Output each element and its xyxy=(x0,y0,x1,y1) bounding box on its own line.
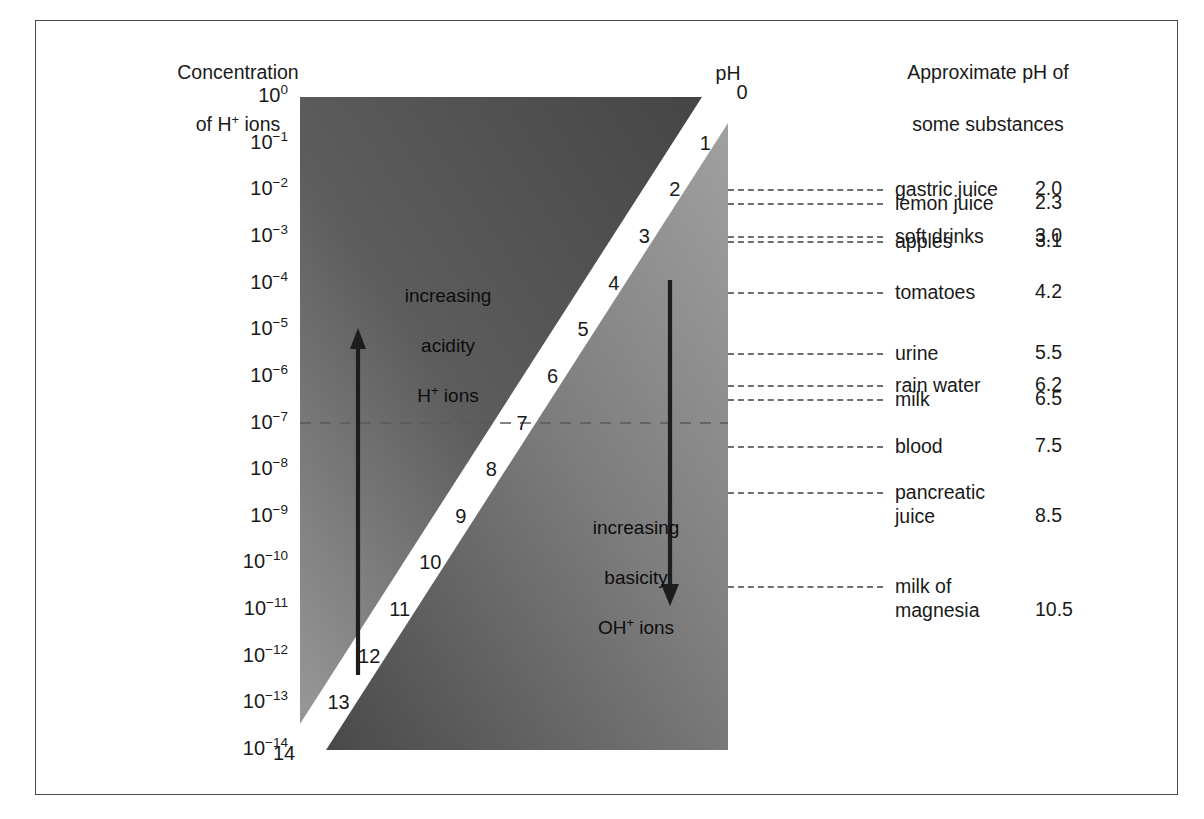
leader-line xyxy=(728,203,883,205)
substance-ph-value: 6.5 xyxy=(1035,387,1062,410)
leader-line xyxy=(728,353,883,355)
substance-ph-value: 4.2 xyxy=(1035,280,1062,303)
substance-ph-value: 8.5 xyxy=(1035,504,1062,527)
leader-line xyxy=(728,399,883,401)
ph-scale-figure: Concentration of H+ ions Approximate pH … xyxy=(0,0,1204,819)
substance-ph-value: 3.1 xyxy=(1035,229,1062,252)
substance-name: milk xyxy=(895,387,930,411)
substance-ph-value: 5.5 xyxy=(1035,341,1062,364)
leader-line xyxy=(728,385,883,387)
substance-ph-value: 2.3 xyxy=(1035,191,1062,214)
substance-ph-value: 7.5 xyxy=(1035,434,1062,457)
leader-line xyxy=(728,241,883,243)
leader-line xyxy=(728,189,883,191)
substance-ph-value: 10.5 xyxy=(1035,598,1073,621)
substance-name: urine xyxy=(895,341,938,365)
leader-line xyxy=(728,586,883,588)
substance-name: tomatoes xyxy=(895,280,975,304)
leader-line xyxy=(728,292,883,294)
leader-line xyxy=(728,236,883,238)
substance-name: apples xyxy=(895,229,952,253)
substance-name: milk of magnesia xyxy=(895,574,980,622)
leader-line xyxy=(728,492,883,494)
substance-name: pancreatic juice xyxy=(895,480,985,528)
substance-list: gastric juice2.0lemon juice2.3soft drink… xyxy=(0,0,1204,819)
leader-line xyxy=(728,446,883,448)
substance-name: lemon juice xyxy=(895,191,994,215)
substance-name: blood xyxy=(895,434,943,458)
